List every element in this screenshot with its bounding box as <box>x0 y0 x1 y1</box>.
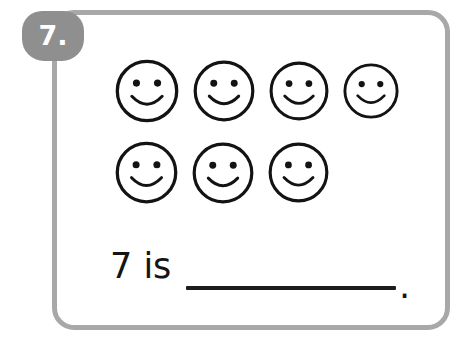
answer-blank-line[interactable] <box>186 286 396 290</box>
smiley-face-icon <box>191 141 255 205</box>
smiley-face-icon <box>192 59 256 123</box>
prompt-text: 7 is <box>110 244 171 288</box>
answer-prompt: 7 is . <box>110 244 420 298</box>
smiley-face-icon <box>114 58 180 124</box>
smiley-row-1 <box>114 58 412 124</box>
smiley-face-icon <box>268 60 330 122</box>
worksheet-problem: 7. 7 is . <box>0 0 456 344</box>
smiley-face-icon <box>114 140 179 205</box>
smiley-row-2 <box>114 140 342 205</box>
problem-number-label: 7. <box>38 22 67 49</box>
smiley-face-icon <box>342 62 400 120</box>
prompt-period: . <box>399 264 410 308</box>
problem-number-badge: 7. <box>22 11 84 61</box>
smiley-face-icon <box>267 141 330 204</box>
